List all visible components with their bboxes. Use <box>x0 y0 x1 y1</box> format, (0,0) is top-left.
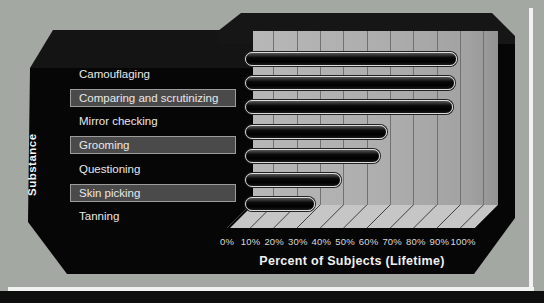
x-axis-title: Percent of Subjects (Lifetime) <box>230 254 474 268</box>
x-tick-label: 100% <box>441 236 485 247</box>
y-axis-title: Substance <box>26 113 42 217</box>
slide-screenshot: CamouflagingComparing and scrutinizingMi… <box>0 0 544 303</box>
